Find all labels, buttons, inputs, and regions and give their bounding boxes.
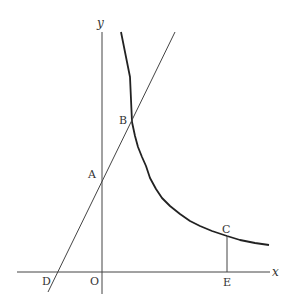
point-C-label: C — [222, 223, 230, 236]
point-D-label: D — [42, 275, 51, 288]
origin-label: O — [90, 275, 99, 288]
y-axis-label: y — [96, 16, 104, 30]
line-DAB — [48, 32, 175, 292]
point-B-label: B — [119, 114, 127, 127]
hyperbola-curve — [121, 32, 269, 245]
x-axis-label: x — [272, 265, 279, 279]
coordinate-diagram: y x O A B C D E — [0, 0, 296, 308]
point-A-label: A — [87, 168, 97, 181]
point-E-label: E — [223, 276, 231, 289]
